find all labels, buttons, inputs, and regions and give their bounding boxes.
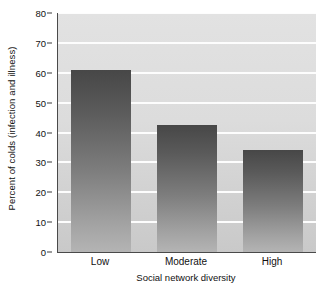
y-axis-tick-label: 30 [35,157,46,168]
gridline [58,13,316,14]
y-axis-tick-label: 50 [35,97,46,108]
bar [71,70,131,252]
plot-area [57,13,316,253]
bar-chart-figure: Percent of colds (infection and illness)… [0,0,329,301]
x-axis-title: Social network diversity [57,272,315,283]
y-axis-tick-label: 70 [35,37,46,48]
gridline [58,42,316,44]
y-axis-tick-mark [47,192,52,193]
bar [243,150,303,252]
y-axis-tick-mark [47,252,52,253]
y-axis-tick-mark [47,222,52,223]
y-axis-tick-mark [47,102,52,103]
x-axis-tick-label: Moderate [165,256,207,267]
x-axis-tick-label: Low [91,256,109,267]
y-axis-tick-mark [47,13,52,14]
y-axis-tick-mark [47,132,52,133]
y-axis-title: Percent of colds (infection and illness) [0,0,22,256]
y-axis-tick-label: 20 [35,187,46,198]
x-axis-tick-label: High [262,256,283,267]
bar [157,125,217,252]
y-axis-tick-label: 10 [35,217,46,228]
y-axis-tick-labels: 01020304050607080 [22,13,52,252]
y-axis-tick-mark [47,72,52,73]
y-axis-tick-label: 60 [35,67,46,78]
y-axis-tick-label: 40 [35,127,46,138]
x-axis-tick-labels: LowModerateHigh [57,256,315,272]
y-axis-tick-mark [47,162,52,163]
y-axis-tick-label: 80 [35,8,46,19]
y-axis-tick-label: 0 [41,247,46,258]
y-axis-title-label: Percent of colds (infection and illness) [6,46,17,210]
y-axis-tick-mark [47,42,52,43]
